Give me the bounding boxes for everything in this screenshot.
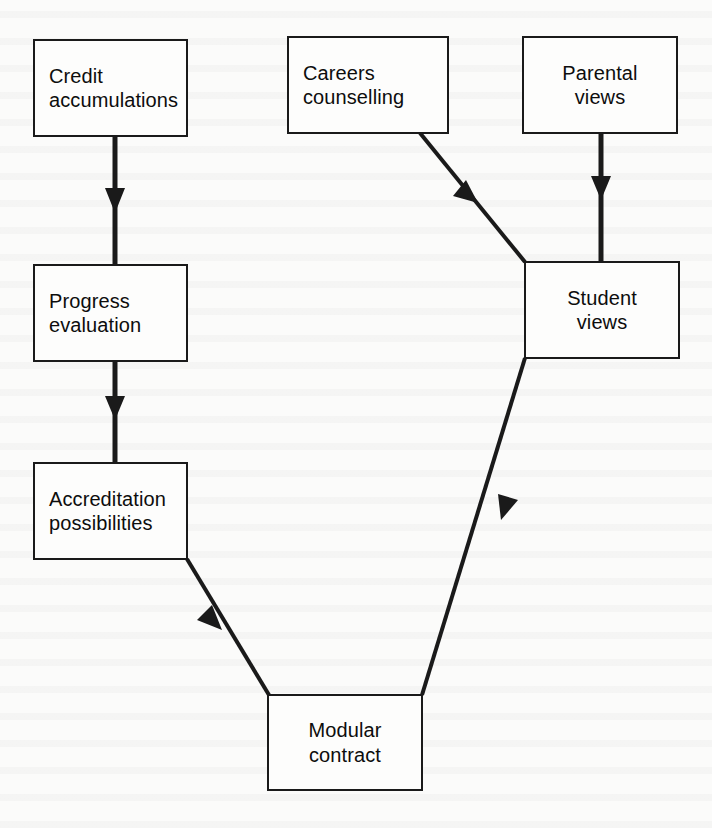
- node-careers-counselling-line2: counselling: [303, 85, 439, 109]
- node-parental-views[interactable]: Parental views: [522, 36, 678, 134]
- node-credit-accumulations-line2: accumulations: [49, 88, 178, 112]
- node-accreditation-possibilities-line1: Accreditation: [49, 487, 178, 511]
- node-accreditation-possibilities-line2: possibilities: [49, 511, 178, 535]
- node-progress-evaluation-line2: evaluation: [49, 313, 178, 337]
- node-accreditation-possibilities[interactable]: Accreditation possibilities: [33, 462, 188, 560]
- node-parental-views-line1: Parental: [562, 61, 637, 85]
- edge-careers-to-student: [420, 133, 525, 262]
- node-parental-views-line2: views: [575, 85, 626, 109]
- edge-progress-to-accreditation: [105, 362, 125, 462]
- node-careers-counselling[interactable]: Careers counselling: [287, 36, 449, 134]
- node-progress-evaluation-line1: Progress: [49, 289, 178, 313]
- node-modular-contract-line1: Modular: [309, 718, 382, 742]
- node-careers-counselling-line1: Careers: [303, 61, 439, 85]
- node-progress-evaluation[interactable]: Progress evaluation: [33, 264, 188, 362]
- node-student-views-line2: views: [577, 310, 628, 334]
- node-modular-contract-line2: contract: [309, 743, 381, 767]
- node-student-views-line1: Student: [567, 286, 637, 310]
- node-credit-accumulations[interactable]: Credit accumulations: [33, 39, 188, 137]
- node-credit-accumulations-line1: Credit: [49, 64, 178, 88]
- node-student-views[interactable]: Student views: [524, 261, 680, 359]
- edge-accreditation-to-modular: [187, 559, 269, 695]
- edge-parental-to-student: [591, 134, 611, 261]
- node-modular-contract[interactable]: Modular contract: [267, 694, 423, 791]
- edge-student-to-modular: [422, 358, 525, 695]
- edge-credit-to-progress: [105, 137, 125, 264]
- diagram-canvas: Credit accumulations Progress evaluation…: [0, 0, 712, 828]
